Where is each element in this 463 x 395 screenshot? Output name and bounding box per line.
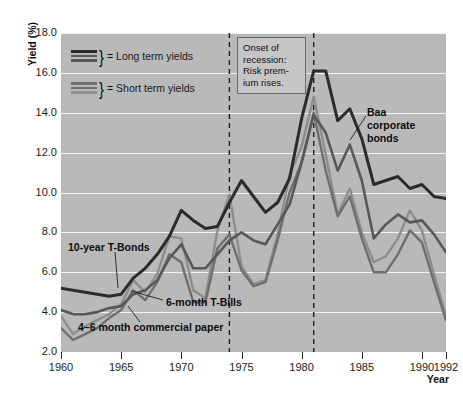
x-tick-label: 1975: [229, 361, 253, 373]
annotation-line-1: Onset of: [243, 42, 300, 54]
series-label-tbonds: 10-year T-Bonds: [68, 241, 150, 253]
y-tick-label: 4.0: [23, 305, 57, 317]
x-axis-title: Year: [427, 373, 449, 385]
x-tick-mark: [446, 352, 447, 359]
legend: } = Long term yields } = Short term yiel…: [71, 45, 241, 109]
y-tick-label: 18.0: [23, 26, 57, 38]
legend-swatch-long-term: [71, 50, 97, 62]
legend-swatch-line-3: [71, 59, 97, 62]
x-tick-label: 1970: [169, 361, 193, 373]
series-label-tbills: 6-month T-Bills: [166, 296, 242, 308]
x-tick-label: 1985: [350, 361, 374, 373]
x-tick-label: 1960: [49, 361, 73, 373]
legend-item-long-term: } = Long term yields: [71, 45, 241, 67]
legend-label-long-term: = Long term yields: [107, 50, 193, 62]
x-tick-label: 1965: [109, 361, 133, 373]
x-tick-mark: [121, 352, 122, 359]
annotation-line-2: recession:: [243, 54, 300, 66]
x-tick-mark: [242, 352, 243, 359]
series-label-baa: Baa corporate bonds: [367, 106, 429, 145]
series-label-commercial-paper: 4–6 month commercial paper: [78, 321, 223, 333]
legend-swatch-short-term: [71, 82, 97, 94]
x-tick-label: 1990: [410, 361, 434, 373]
x-tick-mark: [422, 352, 423, 359]
legend-swatch-line-1: [71, 50, 97, 53]
y-tick-label: 16.0: [23, 66, 57, 78]
x-tick-label: 1992: [434, 361, 458, 373]
yield-chart-figure: Yield (%) 18.016.014.012.010.08.06.04.02…: [0, 0, 463, 395]
y-tick-label: 8.0: [23, 225, 57, 237]
x-axis-ticks: 19601965197019751980198519901992: [0, 352, 463, 392]
x-tick-label: 1980: [289, 361, 313, 373]
legend-swatch-line-2: [71, 87, 97, 90]
x-tick-mark: [61, 352, 62, 359]
x-tick-mark: [302, 352, 303, 359]
legend-swatch-line-3: [71, 91, 97, 94]
y-tick-label: 10.0: [23, 186, 57, 198]
legend-swatch-line-2: [71, 55, 97, 58]
legend-item-short-term: } = Short term yields: [71, 77, 241, 99]
legend-swatch-line-1: [71, 82, 97, 85]
y-tick-label: 6.0: [23, 265, 57, 277]
recession-annotation-box: Onset of recession: Risk prem- ium rises…: [237, 37, 306, 94]
x-tick-mark: [362, 352, 363, 359]
legend-label-short-term: = Short term yields: [107, 82, 195, 94]
y-tick-label: 14.0: [23, 106, 57, 118]
legend-brace-short-term: }: [99, 79, 104, 98]
annotation-line-3: Risk prem-: [243, 65, 300, 77]
y-tick-label: 12.0: [23, 146, 57, 158]
annotation-line-4: ium rises.: [243, 77, 300, 89]
legend-brace-long-term: }: [99, 47, 104, 66]
x-tick-mark: [181, 352, 182, 359]
y-axis-ticks: 18.016.014.012.010.08.06.04.02.0: [19, 0, 57, 395]
